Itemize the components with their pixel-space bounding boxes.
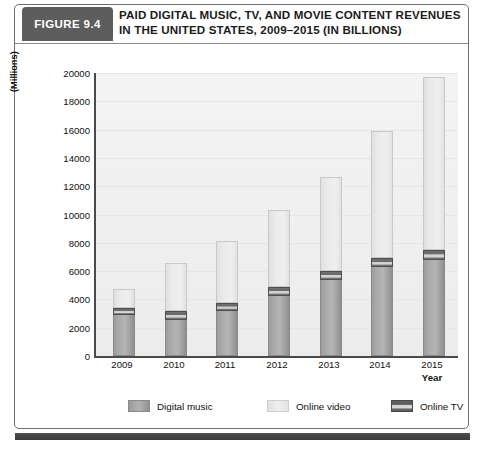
legend-label: Online video <box>296 401 350 412</box>
header-divider <box>15 43 468 44</box>
bar-segment-2009-online-video[interactable] <box>113 289 135 308</box>
y-axis-tick-6000: 6000 <box>30 266 90 277</box>
figure-title: PAID DIGITAL MUSIC, TV, AND MOVIE CONTEN… <box>119 8 462 37</box>
y-axis-tick-12000: 12000 <box>30 181 90 192</box>
bar-2011[interactable] <box>216 241 238 356</box>
y-axis-tick-20000: 20000 <box>30 68 90 79</box>
bar-segment-2014-digital-music[interactable] <box>371 267 393 356</box>
y-axis-tick-2000: 2000 <box>30 322 90 333</box>
chart-area: (Millions) 20000180001600014000120001000… <box>15 48 470 430</box>
bar-segment-2009-online-tv[interactable] <box>113 308 135 315</box>
y-axis-tick-0: 0 <box>30 351 90 362</box>
x-axis-tick-2011: 2011 <box>195 359 255 370</box>
x-axis-tick-2014: 2014 <box>350 359 410 370</box>
y-axis-tick-labels: 2000018000160001400012000100008000600040… <box>24 73 90 356</box>
bar-segment-2010-digital-music[interactable] <box>165 320 187 356</box>
bar-segment-2011-online-tv[interactable] <box>216 303 238 311</box>
legend-label: Online TV <box>420 401 463 412</box>
figure-title-line-2: IN THE UNITED STATES, 2009–2015 (IN BILL… <box>119 23 462 38</box>
gridline-18000 <box>96 101 458 102</box>
figure-number-label: FIGURE 9.4 <box>34 18 101 30</box>
bar-segment-2010-online-video[interactable] <box>165 263 187 312</box>
figure-number-badge: FIGURE 9.4 <box>22 7 113 41</box>
chart-legend: Digital musicOnline videoOnline TV <box>94 400 458 418</box>
bar-segment-2014-online-video[interactable] <box>371 131 393 258</box>
figure-header: FIGURE 9.4 PAID DIGITAL MUSIC, TV, AND M… <box>15 5 468 48</box>
bar-2013[interactable] <box>320 177 342 356</box>
plot-area <box>94 73 458 358</box>
swatch-online-video-icon <box>267 400 289 412</box>
legend-item-digital-music[interactable]: Digital music <box>128 400 213 412</box>
bar-2009[interactable] <box>113 289 135 356</box>
swatch-digital-music-icon <box>128 400 150 412</box>
y-axis-tick-16000: 16000 <box>30 124 90 135</box>
x-axis-tick-labels: 2009201020112012201320142015Year <box>94 359 458 393</box>
y-axis-tick-14000: 14000 <box>30 152 90 163</box>
legend-item-online-video[interactable]: Online video <box>267 400 350 412</box>
bar-segment-2015-online-video[interactable] <box>423 77 445 250</box>
bar-2010[interactable] <box>165 263 187 356</box>
y-axis-tick-8000: 8000 <box>30 237 90 248</box>
y-axis-title: (Millions) <box>9 51 19 92</box>
bar-segment-2013-online-video[interactable] <box>320 177 342 271</box>
x-axis-tick-2009: 2009 <box>92 359 152 370</box>
x-axis-tick-2012: 2012 <box>247 359 307 370</box>
bar-2014[interactable] <box>371 131 393 356</box>
legend-item-online-tv[interactable]: Online TV <box>391 400 463 412</box>
gridline-12000 <box>96 186 458 187</box>
y-axis-tick-18000: 18000 <box>30 96 90 107</box>
bar-segment-2015-digital-music[interactable] <box>423 260 445 356</box>
bar-segment-2015-online-tv[interactable] <box>423 250 445 260</box>
bar-segment-2012-digital-music[interactable] <box>268 296 290 356</box>
figure-card: FIGURE 9.4 PAID DIGITAL MUSIC, TV, AND M… <box>14 4 469 429</box>
swatch-online-tv-icon <box>391 400 413 412</box>
bar-2015[interactable] <box>423 77 445 356</box>
bar-segment-2009-digital-music[interactable] <box>113 315 135 356</box>
bar-segment-2013-digital-music[interactable] <box>320 280 342 356</box>
x-axis-tick-2015: 2015 <box>402 359 462 370</box>
bar-segment-2014-online-tv[interactable] <box>371 258 393 267</box>
bar-segment-2013-online-tv[interactable] <box>320 271 342 280</box>
bar-segment-2010-online-tv[interactable] <box>165 311 187 319</box>
bar-segment-2011-digital-music[interactable] <box>216 311 238 356</box>
gridline-14000 <box>96 158 458 159</box>
figure-title-line-1: PAID DIGITAL MUSIC, TV, AND MOVIE CONTEN… <box>119 8 462 23</box>
bar-segment-2012-online-video[interactable] <box>268 210 290 288</box>
x-axis-title: Year <box>402 372 462 383</box>
bar-2012[interactable] <box>268 210 290 356</box>
figure-bottom-rule <box>15 433 470 440</box>
gridline-16000 <box>96 130 458 131</box>
bar-segment-2012-online-tv[interactable] <box>268 287 290 295</box>
legend-label: Digital music <box>157 401 213 412</box>
bar-segment-2011-online-video[interactable] <box>216 241 238 303</box>
y-axis-tick-4000: 4000 <box>30 294 90 305</box>
gridline-20000 <box>96 73 458 74</box>
y-axis-tick-10000: 10000 <box>30 209 90 220</box>
